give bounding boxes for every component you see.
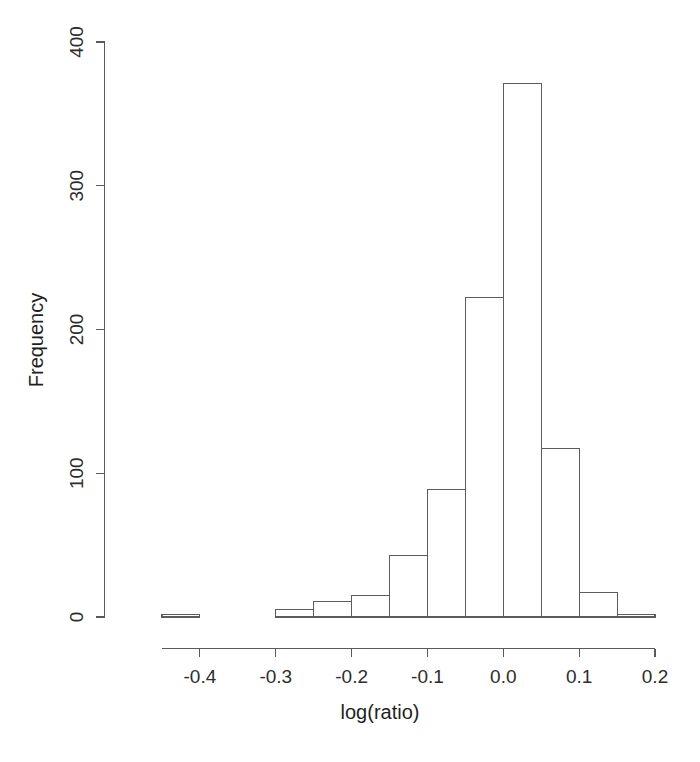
histogram-bar bbox=[314, 601, 352, 617]
y-axis-title: Frequency bbox=[25, 293, 47, 388]
x-tick-label: -0.1 bbox=[411, 666, 444, 687]
x-tick-label: 0.2 bbox=[642, 666, 668, 687]
histogram-bar bbox=[276, 610, 314, 617]
histogram-bar bbox=[465, 298, 503, 617]
y-tick-label: 300 bbox=[66, 170, 87, 202]
histogram-bar bbox=[162, 614, 200, 617]
x-tick-label: -0.3 bbox=[259, 666, 292, 687]
histogram-plot: 0100200300400 -0.4-0.3-0.2-0.10.00.10.2 … bbox=[0, 0, 700, 762]
histogram-figure: 0100200300400 -0.4-0.3-0.2-0.10.00.10.2 … bbox=[0, 0, 700, 762]
x-axis: -0.4-0.3-0.2-0.10.00.10.2 bbox=[162, 649, 668, 688]
y-tick-label: 200 bbox=[66, 314, 87, 346]
x-tick-label: 0.0 bbox=[490, 666, 516, 687]
x-tick-label: -0.2 bbox=[335, 666, 368, 687]
y-tick-label: 0 bbox=[66, 612, 87, 623]
histogram-bar bbox=[617, 614, 655, 617]
y-axis: 0100200300400 bbox=[66, 26, 104, 622]
x-axis-title: log(ratio) bbox=[341, 701, 420, 723]
histogram-bar bbox=[390, 555, 428, 617]
histogram-bar bbox=[427, 489, 465, 617]
x-tick-label: -0.4 bbox=[184, 666, 217, 687]
y-tick-label: 100 bbox=[66, 457, 87, 489]
x-tick-label: 0.1 bbox=[566, 666, 592, 687]
bars-group bbox=[162, 84, 655, 617]
histogram-bar bbox=[352, 595, 390, 617]
histogram-bar bbox=[503, 84, 541, 617]
histogram-bar bbox=[579, 593, 617, 617]
y-tick-label: 400 bbox=[66, 26, 87, 58]
histogram-bar bbox=[541, 449, 579, 617]
